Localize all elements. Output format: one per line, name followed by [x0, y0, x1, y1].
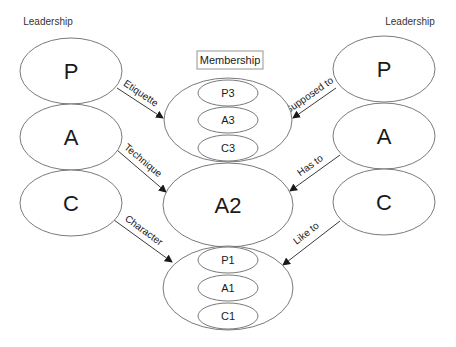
svg-text:P: P: [64, 59, 79, 84]
svg-text:C: C: [376, 190, 392, 215]
svg-text:A3: A3: [221, 114, 234, 126]
svg-text:A1: A1: [221, 282, 234, 294]
svg-text:P3: P3: [221, 87, 234, 99]
left-a-node: A: [20, 104, 122, 170]
c1-node: C1: [198, 303, 258, 329]
svg-text:P1: P1: [221, 254, 234, 266]
svg-text:C1: C1: [221, 310, 235, 322]
c3-node: C3: [198, 135, 258, 161]
has-to-label: Has to: [295, 152, 325, 178]
svg-text:A: A: [377, 124, 392, 149]
right-leadership-header: Leadership: [385, 16, 435, 27]
top-membership-group: P3 A3 C3: [164, 78, 292, 162]
like-to-label: Like to: [291, 220, 321, 247]
p1-node: P1: [198, 247, 258, 273]
svg-text:C3: C3: [221, 142, 235, 154]
left-leadership-column: P A C: [20, 38, 122, 236]
membership-header: Membership: [197, 51, 263, 69]
a3-node: A3: [198, 107, 258, 133]
svg-text:A: A: [64, 125, 79, 150]
svg-text:A2: A2: [215, 193, 242, 218]
bottom-membership-group: P1 A1 C1: [163, 246, 293, 330]
p3-node: P3: [198, 80, 258, 106]
left-c-node: C: [20, 170, 122, 236]
membership-label: Membership: [200, 54, 261, 66]
left-p-node: P: [20, 38, 122, 104]
right-a-node: A: [333, 103, 435, 169]
a1-node: A1: [198, 275, 258, 301]
character-label: Character: [123, 213, 166, 248]
svg-text:P: P: [377, 57, 392, 82]
a2-node: A2: [163, 163, 293, 247]
diagram-canvas: Leadership Leadership Membership Etiquet…: [0, 0, 456, 347]
supposed-to-label: Supposed to: [283, 74, 336, 115]
svg-text:C: C: [63, 191, 79, 216]
right-c-node: C: [333, 169, 435, 235]
right-leadership-column: P A C: [333, 36, 435, 235]
diagram: Leadership Leadership Membership Etiquet…: [0, 0, 456, 347]
left-leadership-header: Leadership: [23, 16, 73, 27]
right-p-node: P: [333, 36, 435, 102]
